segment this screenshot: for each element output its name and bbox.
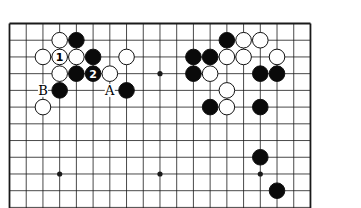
black-stone — [252, 149, 268, 165]
white-stone — [219, 99, 235, 115]
black-stone — [202, 49, 218, 65]
point-label-b: B — [38, 83, 48, 98]
black-stone — [219, 32, 235, 48]
white-stone — [219, 49, 235, 65]
black-stone — [202, 99, 218, 115]
point-label-a: A — [104, 83, 115, 98]
move-number-label: 2 — [89, 68, 97, 81]
white-stone — [52, 66, 68, 82]
black-stone — [252, 66, 268, 82]
svg-text:A: A — [104, 83, 115, 98]
black-stone — [69, 32, 85, 48]
svg-text:B: B — [38, 83, 48, 98]
black-stone — [69, 66, 85, 82]
white-stone — [252, 32, 268, 48]
black-stone: 2 — [85, 66, 101, 82]
white-stone — [236, 32, 252, 48]
white-stone — [69, 49, 85, 65]
white-stone — [202, 66, 218, 82]
white-stone — [35, 49, 51, 65]
white-stone — [52, 32, 68, 48]
white-stone — [269, 49, 285, 65]
white-stone: 1 — [52, 49, 68, 65]
white-stone — [35, 99, 51, 115]
white-stone — [102, 66, 118, 82]
black-stone — [269, 66, 285, 82]
star-point-icon — [157, 71, 162, 76]
go-board-diagram: 12 BA — [0, 0, 361, 208]
black-stone — [186, 49, 202, 65]
white-stone — [236, 49, 252, 65]
black-stone — [52, 83, 68, 99]
black-stone — [119, 83, 135, 99]
black-stone — [186, 66, 202, 82]
black-stone — [85, 49, 101, 65]
star-point-icon — [258, 171, 263, 176]
star-point-icon — [57, 171, 62, 176]
star-point-icon — [157, 171, 162, 176]
black-stone — [269, 183, 285, 199]
black-stone — [252, 99, 268, 115]
white-stone — [119, 49, 135, 65]
move-number-label: 1 — [56, 51, 64, 64]
white-stone — [219, 83, 235, 99]
